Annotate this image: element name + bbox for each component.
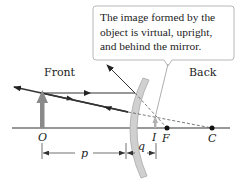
center-of-curvature-marker (210, 126, 215, 131)
virtual-ray-extension-2 (128, 112, 212, 128)
object-arrow-shaft (40, 101, 45, 128)
center-label: C (208, 132, 217, 145)
callout-line-1: The image formed by the (100, 10, 232, 25)
back-label: Back (189, 66, 217, 79)
ray-direction-arrow (84, 90, 91, 96)
q-label: q (138, 140, 145, 153)
front-label: Front (44, 66, 76, 79)
focal-label: F (161, 132, 170, 145)
reflected-ray-1 (107, 65, 135, 93)
focal-point-marker (165, 126, 170, 131)
object-label: O (38, 131, 47, 144)
image-label: I (151, 131, 157, 144)
callout-line-3: and behind the mirror. (100, 39, 232, 54)
p-label: p (81, 147, 88, 160)
callout-line-2: object is virtual, upright, (100, 25, 232, 40)
callout-text: The image formed by the object is virtua… (100, 10, 232, 54)
callout-pointer-line (155, 64, 168, 118)
virtual-ray-extension-1 (135, 93, 167, 128)
